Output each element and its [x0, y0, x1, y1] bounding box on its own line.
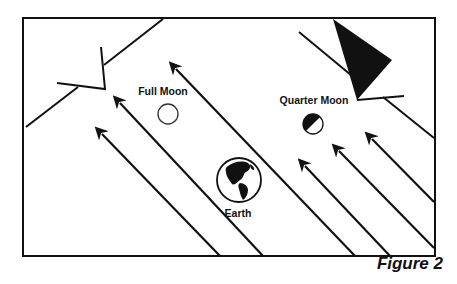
earth-label: Earth — [225, 207, 252, 219]
earth-icon — [217, 158, 261, 202]
sunlight-arrow — [339, 151, 434, 248]
left-boundary-line — [26, 19, 163, 127]
shadow-wedge — [333, 19, 392, 100]
sunlight-arrow — [102, 134, 220, 256]
full-moon-icon — [158, 104, 178, 124]
sunlight-arrow — [372, 139, 434, 202]
quarter-moon-icon — [303, 114, 323, 134]
full-moon-label: Full Moon — [138, 85, 188, 97]
sunlight-arrow — [305, 166, 390, 256]
figure-caption: Figure 2 — [377, 254, 443, 274]
quarter-moon-label: Quarter Moon — [280, 94, 349, 106]
moon-phase-diagram: Full Moon Quarter Moon Earth — [0, 0, 457, 284]
